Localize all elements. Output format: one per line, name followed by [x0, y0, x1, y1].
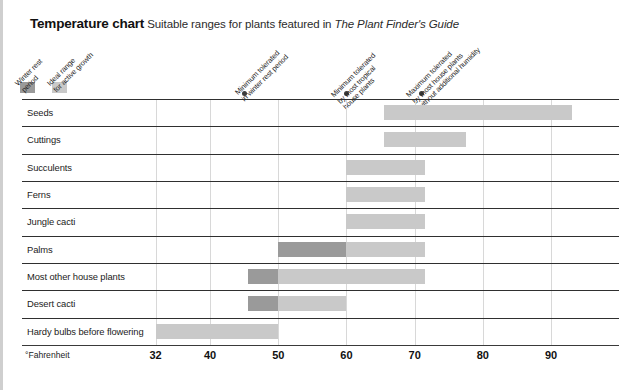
gridline-80 [483, 99, 484, 345]
range-bar [346, 242, 424, 257]
row-divider [22, 154, 619, 155]
temperature-chart-page: Temperature chart Suitable ranges for pl… [0, 0, 643, 390]
row-label: Desert cacti [27, 298, 75, 309]
axis-tick-label: 80 [477, 349, 489, 361]
callout-label: Minimum toleratedin winter rest period [234, 47, 290, 103]
title-main: Temperature chart [30, 16, 144, 31]
axis-tick-label: 60 [340, 349, 352, 361]
axis-tick-label: 50 [272, 349, 284, 361]
range-bar [248, 296, 279, 311]
range-bar [278, 269, 425, 284]
row-label: Succulents [27, 162, 72, 173]
row-divider [22, 318, 619, 319]
title-subtitle: Suitable ranges for plants featured in [147, 18, 334, 30]
range-bar [156, 324, 279, 339]
title-italic: The Plant Finder's Guide [335, 18, 459, 30]
legend-label-ideal-range: Ideal rangefor active growth [46, 45, 95, 94]
range-bar [384, 132, 466, 147]
callout-label-line: by most house plants [411, 40, 476, 105]
gridline-32 [156, 99, 157, 345]
row-divider [22, 208, 619, 209]
plot-area: SeedsCuttingsSucculentsFernsJungle cacti… [22, 99, 619, 345]
row-label: Palms [27, 244, 53, 255]
row-divider [22, 99, 619, 100]
axis-line [22, 345, 619, 346]
axis-tick-label: 40 [204, 349, 216, 361]
range-bar [346, 160, 424, 175]
range-bar [384, 105, 572, 120]
range-bar [248, 269, 279, 284]
range-bar [278, 242, 346, 257]
row-divider [22, 236, 619, 237]
row-divider [22, 181, 619, 182]
range-bar [346, 214, 424, 229]
range-bar [346, 187, 424, 202]
row-divider [22, 126, 619, 127]
row-label: Ferns [27, 189, 50, 200]
gridline-40 [210, 99, 211, 345]
row-label: Seeds [27, 107, 53, 118]
row-label: Most other house plants [27, 271, 125, 282]
axis-tick-label: 90 [545, 349, 557, 361]
row-divider [22, 263, 619, 264]
gridline-90 [551, 99, 552, 345]
row-label: Cuttings [27, 134, 61, 145]
row-label: Jungle cacti [27, 216, 75, 227]
row-label: Hardy bulbs before flowering [27, 326, 144, 337]
axis-tick-label: 70 [409, 349, 421, 361]
row-divider [22, 290, 619, 291]
axis-tick-label: 32 [149, 349, 161, 361]
range-bar [278, 296, 346, 311]
axis-unit-label: °Fahrenheit [25, 350, 70, 360]
page-title: Temperature chart Suitable ranges for pl… [30, 14, 459, 32]
